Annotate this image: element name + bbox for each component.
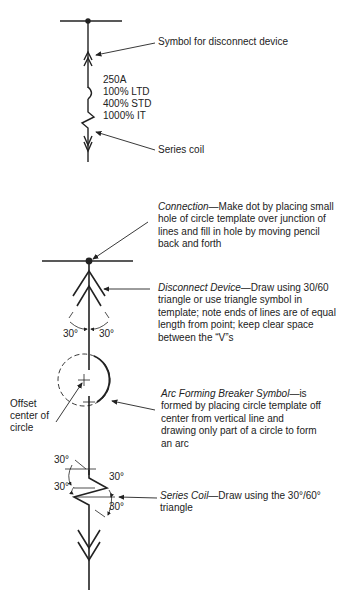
rating-ltd: 100% LTD: [103, 86, 150, 98]
connection-note: Connection—Make dot by placing small hol…: [158, 201, 340, 251]
connection-note-title: Connection: [158, 201, 209, 212]
disconnect-symbol-callout: Symbol for disconnect device: [158, 36, 288, 48]
angle-label-disconnect-right: 30°: [99, 328, 114, 339]
angle-label-disconnect-left: 30°: [63, 328, 78, 339]
rating-250a: 250A: [103, 74, 126, 86]
series-coil-note: Series Coil—Draw using the 30°/60° trian…: [160, 490, 340, 515]
offset-label-line1: Offset: [10, 398, 37, 410]
rating-std: 400% STD: [103, 98, 151, 110]
disconnect-note: Disconnect Device—Draw using 30/60 trian…: [158, 282, 338, 344]
series-coil-note-title: Series Coil: [160, 490, 208, 501]
arc-breaker-note: Arc Forming Breaker Symbol—is formed by …: [161, 388, 321, 450]
angle-label-coil-right-lower: 30°: [109, 501, 124, 512]
offset-label-line3: circle: [10, 422, 33, 434]
series-coil: [82, 110, 94, 133]
series-coil-callout: Series coil: [158, 144, 204, 156]
arc-forming-breaker: [58, 354, 110, 406]
rating-it: 1000% IT: [103, 110, 146, 122]
arc-breaker-note-title: Arc Forming Breaker Symbol: [161, 388, 289, 399]
angle-label-coil-left-lower: 30°: [54, 481, 69, 492]
angle-label-coil-right-upper: 30°: [109, 471, 124, 482]
angle-label-coil-top-left: 30°: [54, 454, 69, 465]
offset-label-line2: center of: [10, 410, 49, 422]
bottom-breaker-symbol: [42, 258, 133, 475]
breaker-arc: [88, 87, 92, 99]
disconnect-note-title: Disconnect Device: [158, 282, 241, 293]
